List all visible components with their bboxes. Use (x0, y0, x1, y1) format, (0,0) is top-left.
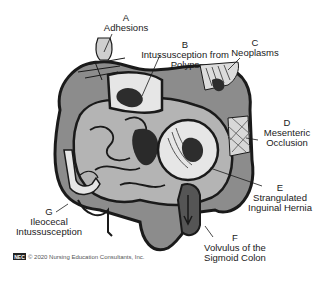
copyright-text: © 2020 Nursing Education Consultants, In… (28, 254, 145, 260)
label-d: D Mesenteric Occlusion (257, 118, 317, 148)
label-g: G Ileocecal Intussusception (12, 207, 86, 237)
copyright-footer: NEC © 2020 Nursing Education Consultants… (13, 253, 145, 260)
label-b: B Intussusception from Polyps (140, 40, 230, 70)
label-f: F Volvulus of the Sigmoid Colon (185, 233, 285, 263)
label-d-line2: Occlusion (257, 138, 317, 148)
label-c-text: Neoplasms (231, 47, 279, 58)
label-c: C Neoplasms (222, 38, 288, 58)
label-a: A Adhesions (96, 13, 156, 33)
label-e: E Strangulated Inguinal Hernia (245, 183, 315, 213)
label-e-line2: Inguinal Hernia (245, 203, 315, 213)
adhesion-band (96, 38, 112, 60)
label-f-line2: Sigmoid Colon (185, 253, 285, 263)
label-g-line2: Intussusception (12, 227, 86, 237)
label-a-text: Adhesions (104, 22, 148, 33)
label-b-line2: Polyps (140, 60, 230, 70)
nec-logo-icon: NEC (13, 253, 26, 260)
sigmoid-volvulus (178, 184, 200, 235)
